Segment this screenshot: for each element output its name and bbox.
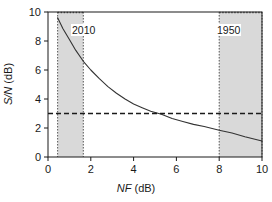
x-axis-label-symbol: NF xyxy=(117,182,132,194)
y-axis-label: S/N (dB) xyxy=(2,44,14,124)
svg-text:0: 0 xyxy=(45,163,51,175)
svg-text:6: 6 xyxy=(35,64,41,76)
svg-text:4: 4 xyxy=(35,93,41,105)
svg-text:10: 10 xyxy=(29,6,41,18)
svg-text:10: 10 xyxy=(256,163,268,175)
y-axis-label-unit: (dB) xyxy=(2,63,14,87)
x-axis-label-unit: (dB) xyxy=(131,182,155,194)
svg-text:8: 8 xyxy=(35,35,41,47)
svg-text:2: 2 xyxy=(88,163,94,175)
svg-text:6: 6 xyxy=(173,163,179,175)
svg-text:8: 8 xyxy=(216,163,222,175)
band-label-1950: 1950 xyxy=(216,24,241,36)
x-axis-label: NF (dB) xyxy=(0,182,272,194)
band-label-2010: 2010 xyxy=(71,24,96,36)
y-axis-label-symbol: S/N xyxy=(2,87,14,105)
chart-figure: 02468100246810 NF (dB) S/N (dB) 2010 195… xyxy=(0,0,272,202)
svg-text:0: 0 xyxy=(35,151,41,163)
svg-text:2: 2 xyxy=(35,122,41,134)
svg-text:4: 4 xyxy=(131,163,137,175)
